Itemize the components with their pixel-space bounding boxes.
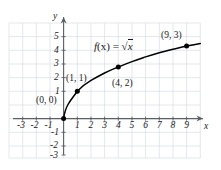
x-tick-label-6: 6 [143, 121, 148, 131]
point-1-1 [75, 89, 80, 94]
y-tick-label-3: 3 [54, 59, 59, 69]
x-tick-label-7: 7 [157, 121, 162, 131]
point-4-2 [116, 64, 121, 69]
y-axis-label: y [53, 12, 57, 22]
square-root-graph-figure: -3 -2 -1 1 2 3 4 5 6 7 8 9 5 4 3 2 1 -1 … [0, 0, 221, 170]
x-tick-label-3: 3 [102, 121, 107, 131]
x-tick-label-1: 1 [75, 121, 80, 131]
x-tick-label-8: 8 [171, 121, 176, 131]
plot-canvas [0, 0, 221, 170]
x-tick-label-5: 5 [130, 121, 135, 131]
y-tick-label--3: -3 [50, 151, 58, 161]
point-9-3 [184, 44, 189, 49]
radical-icon: √ [122, 40, 128, 52]
formula-arg: (x) [97, 40, 110, 52]
formula-equals: = [110, 40, 122, 52]
x-tick-label-9: 9 [184, 121, 189, 131]
y-tick-label-5: 5 [54, 32, 59, 42]
y-axis [61, 17, 67, 155]
function-formula: f(x) = √x [94, 41, 133, 52]
y-tick-label-4: 4 [54, 46, 59, 56]
point-label-4-2: (4, 2) [112, 79, 133, 89]
point-label-9-3: (9, 3) [161, 31, 182, 41]
x-axis-label: x [204, 122, 208, 132]
point-0-0 [61, 116, 66, 121]
point-label-0-0: (0, 0) [36, 96, 57, 106]
y-tick-label--1: -1 [51, 128, 59, 138]
y-tick-label-2: 2 [54, 73, 59, 83]
x-tick-label-2: 2 [89, 121, 94, 131]
point-label-1-1: (1, 1) [66, 74, 87, 84]
x-tick-label--2: -2 [31, 121, 39, 131]
formula-radicand: x [128, 39, 133, 52]
x-tick-label-4: 4 [116, 121, 121, 131]
x-tick-label--3: -3 [17, 121, 25, 131]
